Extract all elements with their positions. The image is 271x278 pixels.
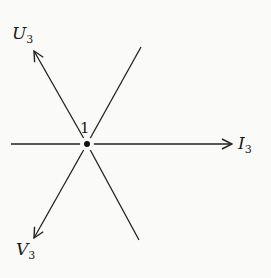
center-node-label: 1 <box>80 121 90 136</box>
vector-diagram: 1 U3 I3 V3 <box>0 0 271 278</box>
i3-label: I3 <box>238 135 252 155</box>
v3-vector-line <box>34 144 87 238</box>
v3-label-subscript: 3 <box>28 249 35 262</box>
lower-right-line <box>87 144 139 240</box>
u3-label: U3 <box>12 25 33 45</box>
diagram-lines <box>0 0 271 278</box>
i3-label-name: I <box>238 133 245 153</box>
v3-label: V3 <box>16 241 35 261</box>
i3-label-subscript: 3 <box>245 143 252 156</box>
u3-label-subscript: 3 <box>26 33 33 46</box>
center-node-dot <box>84 141 90 147</box>
upper-right-line <box>87 47 141 144</box>
u3-label-name: U <box>12 23 26 43</box>
v3-label-name: V <box>16 239 28 259</box>
